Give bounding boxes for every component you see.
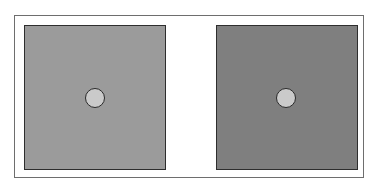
left-gray-circle: [85, 88, 105, 108]
right-gray-circle: [276, 88, 296, 108]
